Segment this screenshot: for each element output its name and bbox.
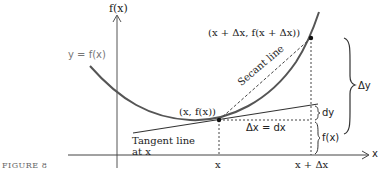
differential-figure: f(x) y = f(x) (x + Δx, f(x + Δx)) (x, f(… (0, 0, 379, 189)
shifted-point-label: (x + Δx, f(x + Δx)) (208, 28, 300, 38)
x-plus-dx-tick-label: x + Δx (295, 160, 328, 170)
y-axis-label: f(x) (109, 3, 128, 14)
x-tick-label: x (215, 160, 221, 170)
delta-y-brace-icon (344, 38, 355, 134)
point-shifted (309, 36, 313, 40)
tangent-line-label: Tangent line (132, 136, 195, 146)
figure-caption: FIGURE 8 (2, 162, 47, 170)
fx-brace-icon (315, 122, 320, 154)
point-base (217, 118, 221, 122)
curve-label: y = f(x) (68, 50, 106, 60)
tangent-line (133, 104, 318, 133)
delta-y-label: Δy (358, 81, 371, 91)
fx-brace-label: f(x) (322, 133, 339, 143)
dy-brace-icon (315, 106, 320, 120)
dy-label: dy (322, 108, 334, 118)
base-point-label: (x, f(x)) (179, 107, 216, 117)
x-axis-label: x (372, 149, 378, 159)
tangent-at-x-label: at x (132, 147, 151, 157)
delta-x-label: Δx = dx (246, 123, 286, 133)
